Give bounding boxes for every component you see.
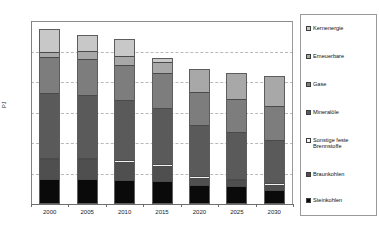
bar-2005[interactable] [77,35,98,204]
legend-swatch-icon [306,26,311,31]
bar-segment-kernenergie [39,29,60,53]
bar-series-container [31,21,293,204]
x-axis-tick-label-2020: 2020 [179,209,219,215]
bar-segment-mineraloele [226,133,247,180]
bar-segment-mineraloele [77,96,98,159]
bar-segment-erneuerbare [264,76,285,107]
x-axis-tick [68,204,69,207]
bar-2030[interactable] [264,76,285,204]
bar-segment-steinkohlen [114,181,135,204]
x-axis: 2000200520102015202020252030 [31,204,293,226]
legend-swatch-icon [306,198,311,203]
y-axis-label: PJ [1,101,7,108]
chart-figure: PJ 02.5005.0007.50010.00012.50015.000 20… [0,0,379,230]
x-axis-tick-label-2000: 2000 [30,209,70,215]
bar-2000[interactable] [39,29,60,204]
legend-swatch-icon [306,138,311,143]
bar-segment-braunkohlen [114,163,135,181]
bar-2010[interactable] [114,39,135,204]
x-axis-tick [218,204,219,207]
x-axis-tick-label-2010: 2010 [105,209,145,215]
legend-item-mineralöle[interactable]: Mineralöle [306,109,339,115]
bar-segment-braunkohlen [77,160,98,180]
bar-segment-gase [77,60,98,96]
x-axis-tick-label-2030: 2030 [254,209,294,215]
x-axis-tick-label-2015: 2015 [142,209,182,215]
bar-segment-mineraloele [114,101,135,162]
bar-segment-mineraloele [264,141,285,184]
bar-segment-mineraloele [39,94,60,159]
bar-segment-kernenergie [77,35,98,52]
bar-segment-braunkohlen [152,167,173,182]
x-axis-tick [106,204,107,207]
legend-item-gase[interactable]: Gase [306,81,326,87]
bar-segment-mineraloele [152,109,173,166]
legend-item-steinkohlen[interactable]: Steinkohlen [306,197,342,203]
bar-segment-steinkohlen [39,180,60,204]
bar-2015[interactable] [152,58,173,204]
chart-legend: KernenergieErneuerbareGaseMineralöleSons… [300,14,377,216]
bar-2025[interactable] [226,73,247,204]
x-axis-tick [143,204,144,207]
bar-segment-gase [114,66,135,101]
legend-label: Mineralöle [313,109,339,115]
legend-label: Braunkohlen [313,171,344,177]
x-axis-tick-label-2005: 2005 [67,209,107,215]
legend-swatch-icon [306,110,311,115]
bar-segment-steinkohlen [152,182,173,204]
legend-label: Gase [313,81,326,87]
bar-segment-erneuerbare [226,73,247,100]
bar-segment-gase [264,107,285,141]
chart-plot-area: PJ 02.5005.0007.50010.00012.50015.000 20… [0,0,300,230]
legend-label: Erneuerbare [313,53,344,59]
bar-segment-kernenergie [114,39,135,56]
bar-segment-erneuerbare [77,52,98,60]
legend-label: Sonstige feste Brennstoffe [313,137,348,150]
legend-item-sonstige feste[interactable]: Sonstige feste Brennstoffe [306,137,348,150]
bar-segment-braunkohlen [189,179,210,186]
bar-segment-steinkohlen [264,191,285,204]
legend-item-erneuerbare[interactable]: Erneuerbare [306,53,344,59]
x-axis-tick [181,204,182,207]
bar-segment-gase [189,93,210,126]
bar-segment-steinkohlen [189,186,210,204]
bar-segment-braunkohlen [39,160,60,180]
bar-2020[interactable] [189,69,210,204]
bar-segment-gase [39,58,60,94]
bar-segment-erneuerbare [189,69,210,93]
x-axis-tick [293,204,294,207]
x-axis-tick [31,204,32,207]
x-axis-tick-label-2025: 2025 [217,209,257,215]
x-axis-tick [256,204,257,207]
legend-swatch-icon [306,172,311,177]
bar-segment-steinkohlen [226,187,247,204]
legend-item-braunkohlen[interactable]: Braunkohlen [306,171,344,177]
bar-segment-gase [226,100,247,133]
bar-segment-gase [152,74,173,108]
bar-segment-mineraloele [189,126,210,178]
legend-swatch-icon [306,54,311,59]
legend-swatch-icon [306,82,311,87]
bar-segment-erneuerbare [152,63,173,75]
bar-segment-erneuerbare [114,57,135,66]
legend-label: Steinkohlen [313,197,342,203]
bar-segment-steinkohlen [77,180,98,204]
legend-label: Kernenergie [313,25,343,31]
legend-item-kernenergie[interactable]: Kernenergie [306,25,343,31]
